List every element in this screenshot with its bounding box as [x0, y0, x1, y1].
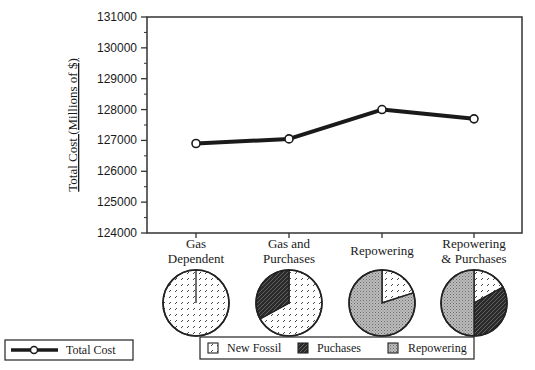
legend-label: Repowering: [408, 341, 467, 355]
data-point-marker: [192, 140, 200, 148]
pie-gas-dependent: [163, 270, 229, 336]
y-tick-label: 130000: [97, 41, 137, 55]
pie-charts: [163, 270, 507, 336]
pie-repowering-purchases: [441, 270, 507, 336]
total-cost-line: [196, 110, 474, 144]
x-category-label: Repowering: [350, 243, 414, 258]
legend-swatch-repowering: [388, 343, 398, 353]
legend-circle-marker-icon: [31, 347, 38, 354]
data-point-marker: [378, 106, 386, 114]
pie-gas-and-purchases: [256, 270, 322, 336]
y-axis-label: Total Cost (Millions of $): [65, 58, 80, 191]
data-point-marker: [470, 115, 478, 123]
legend-resource-mix: New FossilPuchasesRepowering: [200, 337, 474, 359]
y-tick-label: 124000: [97, 226, 137, 240]
y-tick-label: 127000: [97, 133, 137, 147]
x-category-label: Gas andPurchases: [263, 236, 315, 266]
y-axis: 1240001250001260001270001280001290001300…: [97, 10, 147, 240]
y-tick-label: 125000: [97, 195, 137, 209]
y-tick-label: 131000: [97, 10, 137, 24]
legend-swatch-puchases: [298, 343, 308, 353]
legend-total-cost: Total Cost: [5, 340, 133, 360]
pie-repowering: [349, 270, 415, 336]
legend-swatch-new-fossil: [208, 343, 218, 353]
legend-label: Total Cost: [66, 343, 116, 357]
chart-canvas: 1240001250001260001270001280001290001300…: [0, 0, 535, 370]
x-axis: GasDependentGas andPurchasesRepoweringRe…: [168, 233, 507, 266]
total-cost-series: [192, 106, 478, 148]
pie-slice: [441, 270, 474, 336]
y-tick-label: 126000: [97, 164, 137, 178]
x-category-label: Repowering& Purchases: [441, 236, 506, 266]
data-point-marker: [285, 135, 293, 143]
legend-label: Puchases: [317, 341, 361, 355]
y-tick-label: 128000: [97, 103, 137, 117]
legend-label: New Fossil: [227, 341, 282, 355]
x-category-label: GasDependent: [168, 236, 225, 266]
y-tick-label: 129000: [97, 72, 137, 86]
